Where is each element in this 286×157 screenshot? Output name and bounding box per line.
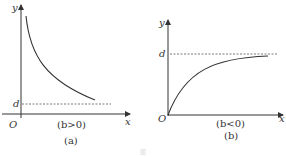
x-label-a: x xyxy=(125,116,131,127)
origin-label-b: O xyxy=(158,113,166,124)
caption-b: (b) xyxy=(224,130,238,141)
caption-a: (a) xyxy=(64,135,78,146)
x-label-b: x xyxy=(279,113,285,124)
figure-caption: 图 xyxy=(140,148,146,156)
figure-a: y d O x (b>0) (a) xyxy=(2,2,131,146)
origin-label-a: O xyxy=(9,119,17,130)
curve-a xyxy=(26,16,95,100)
y-label-b: y xyxy=(158,17,165,28)
figure-b: y d O x (b<0) (b) xyxy=(158,17,285,141)
condition-b: (b<0) xyxy=(216,118,245,129)
y-label-a: y xyxy=(11,2,18,13)
diagram-canvas: y d O x (b>0) (a) y d O x (b<0) (b) 图 xyxy=(0,0,286,157)
curve-b xyxy=(168,56,268,115)
d-label-b: d xyxy=(159,48,165,59)
d-label-a: d xyxy=(13,98,19,109)
condition-a: (b>0) xyxy=(57,119,86,130)
